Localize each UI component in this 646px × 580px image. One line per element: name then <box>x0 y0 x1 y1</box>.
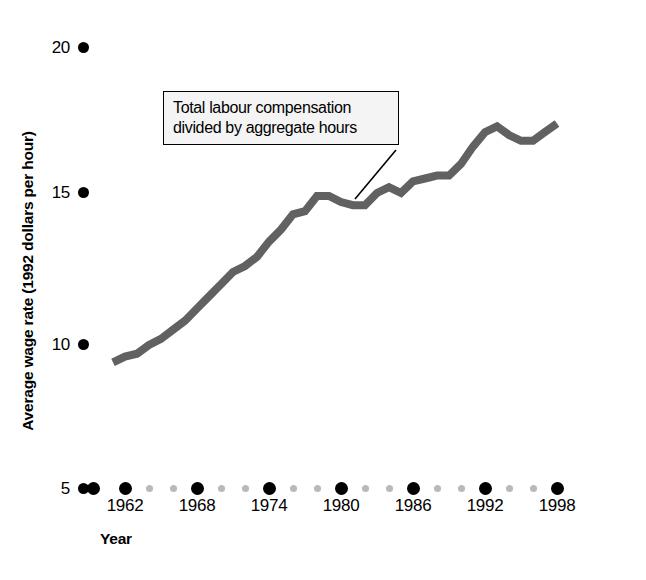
x-tick-label-1968: 1968 <box>167 496 227 516</box>
x-tick-marker-minor-1988 <box>434 485 441 492</box>
x-tick-marker-1962 <box>119 482 132 495</box>
x-tick-marker-1974 <box>263 482 276 495</box>
x-tick-label-1962: 1962 <box>95 496 155 516</box>
x-tick-marker-minor-1976 <box>290 485 297 492</box>
x-tick-marker-1998 <box>551 482 564 495</box>
annotation-line-2: divided by aggregate hours <box>173 118 389 138</box>
y-tick-marker-15 <box>78 187 89 198</box>
y-tick-label-5: 5 <box>36 479 70 499</box>
chart-figure: Average wage rate (1992 dollars per hour… <box>0 0 646 580</box>
y-tick-marker-10 <box>78 339 89 350</box>
x-tick-marker-minor-1984 <box>386 485 393 492</box>
x-tick-label-1974: 1974 <box>239 496 299 516</box>
x-tick-marker-minor-1982 <box>362 485 369 492</box>
annotation-callout: Total labour compensation divided by agg… <box>163 91 399 145</box>
x-axis-label: Year <box>100 530 132 548</box>
y-tick-label-20: 20 <box>36 38 70 58</box>
x-tick-marker-minor-1970 <box>218 485 225 492</box>
x-tick-marker-1986 <box>407 482 420 495</box>
x-tick-label-1986: 1986 <box>383 496 443 516</box>
x-tick-marker-minor-1964 <box>146 485 153 492</box>
x-tick-marker-minor-1966 <box>170 485 177 492</box>
x-tick-label-1980: 1980 <box>311 496 371 516</box>
x-tick-label-1992: 1992 <box>455 496 515 516</box>
x-tick-marker-minor-1994 <box>506 485 513 492</box>
annotation-line-1: Total labour compensation <box>173 98 389 118</box>
y-tick-label-10: 10 <box>36 335 70 355</box>
x-tick-marker-1980 <box>335 482 348 495</box>
wage-rate-series-line <box>113 123 557 362</box>
x-tick-marker-minor-1972 <box>242 485 249 492</box>
x-tick-marker-1992 <box>479 482 492 495</box>
x-tick-marker-minor-1996 <box>530 485 537 492</box>
x-tick-marker-minor-1978 <box>314 485 321 492</box>
y-tick-label-15: 15 <box>36 183 70 203</box>
y-axis-label: Average wage rate (1992 dollars per hour… <box>19 31 37 531</box>
x-tick-marker-1968 <box>191 482 204 495</box>
y-tick-marker-20 <box>78 42 89 53</box>
x-tick-label-1998: 1998 <box>527 496 587 516</box>
x-tick-marker-minor-1990 <box>458 485 465 492</box>
annotation-leader-line <box>355 150 396 199</box>
x-tick-marker-1960 <box>87 482 100 495</box>
